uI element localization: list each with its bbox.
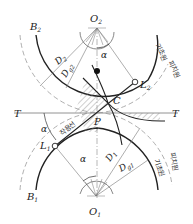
label-alpha-left: α	[41, 124, 47, 134]
angle-arc-bottom	[83, 176, 96, 181]
point-dot	[94, 68, 100, 74]
label-L1: L1	[39, 140, 50, 152]
dim-D1	[96, 128, 140, 196]
label-pitch-circle-top: 피치원	[166, 59, 182, 79]
label-D2: D2	[52, 52, 68, 68]
label-T-left: T	[14, 108, 22, 119]
label-alpha-top: α	[101, 50, 107, 60]
label-L2: L2	[139, 79, 151, 91]
point-L1	[52, 143, 58, 149]
label-base-circle-top: 기초원	[153, 42, 169, 62]
label-O2: O2	[90, 13, 102, 25]
label-B1: B1	[26, 191, 38, 203]
label-T-right: T	[172, 108, 180, 119]
label-C: C	[113, 95, 121, 106]
base-circle-lower	[36, 128, 158, 190]
dim-Dg2	[66, 28, 97, 88]
label-pitch-circle-bottom: 피치원	[168, 152, 181, 171]
label-D1: D1	[103, 148, 119, 164]
gear-diagram: O2 O1 B2 B1 L1 L2 P C T T α α α D2 Dg2 D…	[0, 0, 193, 224]
label-alpha-bottom: α	[80, 154, 86, 164]
label-P: P	[93, 116, 101, 127]
hub-spokes-lower	[85, 179, 107, 196]
label-O1: O1	[89, 206, 101, 218]
label-B2: B2	[29, 21, 41, 33]
point-L2	[132, 79, 138, 85]
